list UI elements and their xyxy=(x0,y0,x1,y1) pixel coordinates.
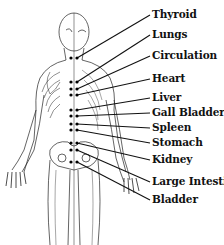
point-dot-stomach xyxy=(75,128,78,131)
pointer-lines xyxy=(69,15,150,200)
label-liver: Liver xyxy=(152,92,181,103)
point-dot-left-circulation xyxy=(69,87,72,90)
point-dot-left-gall-bladder xyxy=(69,114,72,117)
point-dot-left-liver xyxy=(69,108,72,111)
point-dot-spleen xyxy=(75,122,78,125)
point-dot-left-bladder xyxy=(69,160,72,163)
label-bladder: Bladder xyxy=(152,194,198,205)
label-large-intestine: Large Intestine xyxy=(152,176,224,187)
label-heart: Heart xyxy=(152,73,185,84)
point-dot-thyroid xyxy=(75,56,78,59)
point-dot-left-kidney xyxy=(69,141,72,144)
point-dot-left-stomach xyxy=(69,128,72,131)
pointer-line-spleen xyxy=(77,124,150,128)
label-stomach: Stomach xyxy=(152,137,203,148)
point-dot-left-spleen xyxy=(69,122,72,125)
pointer-line-heart xyxy=(77,79,150,95)
label-spleen: Spleen xyxy=(152,122,191,133)
pointer-line-gall-bladder xyxy=(77,113,150,116)
pointer-line-liver xyxy=(77,98,150,110)
pointer-line-kidney xyxy=(77,143,150,160)
label-gall-bladder: Gall Bladder xyxy=(152,107,224,118)
point-dot-left-large-intestine xyxy=(69,148,72,151)
point-dot-lungs xyxy=(75,80,78,83)
pointer-line-bladder xyxy=(77,162,150,200)
point-dot-large-intestine xyxy=(75,148,78,151)
label-circulation: Circulation xyxy=(152,50,217,61)
point-dot-left-heart xyxy=(69,93,72,96)
point-dot-liver xyxy=(75,108,78,111)
body-outline xyxy=(6,13,139,245)
point-dot-circulation xyxy=(75,87,78,90)
point-dot-kidney xyxy=(75,141,78,144)
point-dot-heart xyxy=(75,93,78,96)
point-dot-bladder xyxy=(75,160,78,163)
pointer-line-thyroid xyxy=(77,15,150,58)
pointer-line-circulation xyxy=(77,56,150,89)
label-kidney: Kidney xyxy=(152,154,192,165)
point-dot-left-thyroid xyxy=(69,56,72,59)
pointer-line-large-intestine xyxy=(77,150,150,182)
point-dot-gall-bladder xyxy=(75,114,78,117)
label-lungs: Lungs xyxy=(152,29,187,40)
point-dot-left-lungs xyxy=(69,80,72,83)
label-thyroid: Thyroid xyxy=(152,9,197,20)
pointer-line-lungs xyxy=(77,35,150,82)
